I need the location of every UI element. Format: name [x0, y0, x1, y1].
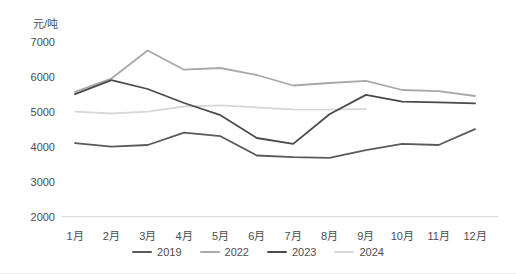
x-tick-label: 5月	[200, 230, 240, 242]
x-tick-label: 2月	[91, 230, 131, 242]
legend-item-2022: 2022	[200, 246, 249, 258]
y-tick-label: 2000	[0, 211, 55, 223]
x-tick-label: 4月	[164, 230, 204, 242]
legend-label-2019: 2019	[157, 246, 181, 258]
legend-label-2024: 2024	[359, 246, 383, 258]
x-tick-label: 1月	[55, 230, 95, 242]
x-tick-label: 9月	[346, 230, 386, 242]
legend-item-2019: 2019	[132, 246, 181, 258]
x-axis-baseline	[62, 216, 498, 217]
x-tick-label: 10月	[382, 230, 422, 242]
legend-swatch-2023	[267, 251, 287, 253]
x-tick-label: 8月	[310, 230, 350, 242]
x-tick-label: 7月	[273, 230, 313, 242]
x-tick-label: 6月	[237, 230, 277, 242]
x-tick-label: 12月	[455, 230, 495, 242]
y-tick-label: 6000	[0, 71, 55, 83]
legend-item-2024: 2024	[334, 246, 383, 258]
legend-item-2023: 2023	[267, 246, 316, 258]
y-tick-label: 4000	[0, 141, 55, 153]
legend-swatch-2024	[334, 251, 354, 253]
x-tick-label: 3月	[128, 230, 168, 242]
price-line-chart: 元/吨 700060005000400030002000 1月2月3月4月5月6…	[0, 0, 516, 274]
legend-label-2023: 2023	[292, 246, 316, 258]
x-tick-label: 11月	[419, 230, 459, 242]
y-tick-label: 3000	[0, 176, 55, 188]
legend-label-2022: 2022	[225, 246, 249, 258]
chart-legend: 2019202220232024	[0, 246, 516, 258]
y-tick-label: 7000	[0, 36, 55, 48]
series-line-2019	[75, 129, 475, 158]
legend-swatch-2022	[200, 251, 220, 253]
y-tick-label: 5000	[0, 106, 55, 118]
legend-swatch-2019	[132, 251, 152, 253]
series-line-2024	[75, 105, 366, 113]
series-line-2022	[75, 51, 475, 97]
